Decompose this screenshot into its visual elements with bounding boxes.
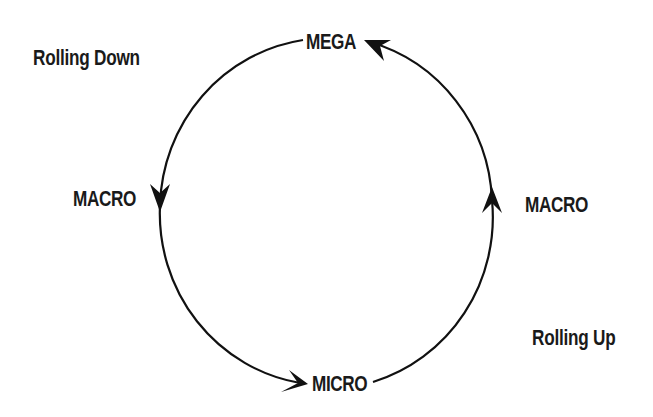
caption-rolling-up: Rolling Up (532, 327, 615, 349)
cycle-diagram: MEGA MACRO MACRO MICRO Rolling Down Roll… (0, 0, 653, 417)
caption-rolling-down: Rolling Down (33, 47, 140, 69)
node-macro-right: MACRO (525, 194, 588, 216)
arrow-micro-to-right-macro (373, 200, 493, 382)
arrow-right-macro-to-mega (370, 42, 492, 200)
node-mega: MEGA (306, 31, 356, 53)
node-micro: MICRO (312, 373, 367, 395)
arrow-left-macro-to-micro (160, 205, 300, 383)
arrowhead-left-icon (364, 40, 391, 61)
arrow-mega-to-left-macro (160, 40, 303, 205)
node-macro-left: MACRO (73, 188, 136, 210)
